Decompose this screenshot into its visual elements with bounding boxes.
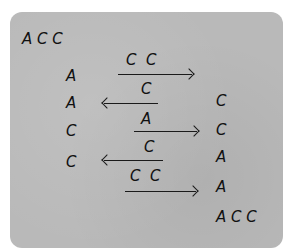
diagram-card: A C C A A C C C C A A A C C C C C A C C …	[10, 12, 283, 248]
arrow-label-1: C C	[126, 53, 156, 68]
arrow-label-2: C	[141, 82, 151, 97]
arrow-label-5: C C	[130, 169, 160, 184]
arrow-label-3: A	[141, 112, 151, 127]
right-arrow-icon	[125, 191, 196, 192]
right-arrow-icon	[134, 131, 197, 132]
left-arrow-icon	[104, 160, 163, 161]
right-letter-1: C	[216, 94, 226, 109]
right-sequence: A C C	[216, 210, 257, 225]
left-arrow-icon	[104, 103, 158, 104]
right-letter-2: C	[216, 123, 226, 138]
left-letter-1: A	[66, 69, 76, 84]
arrow-label-4: C	[144, 140, 154, 155]
left-letter-2: A	[66, 96, 76, 111]
header-sequence: A C C	[22, 32, 63, 47]
right-letter-3: A	[216, 150, 226, 165]
right-letter-4: A	[216, 180, 226, 195]
right-arrow-icon	[118, 74, 192, 75]
left-letter-4: C	[66, 155, 76, 170]
left-letter-3: C	[66, 124, 76, 139]
